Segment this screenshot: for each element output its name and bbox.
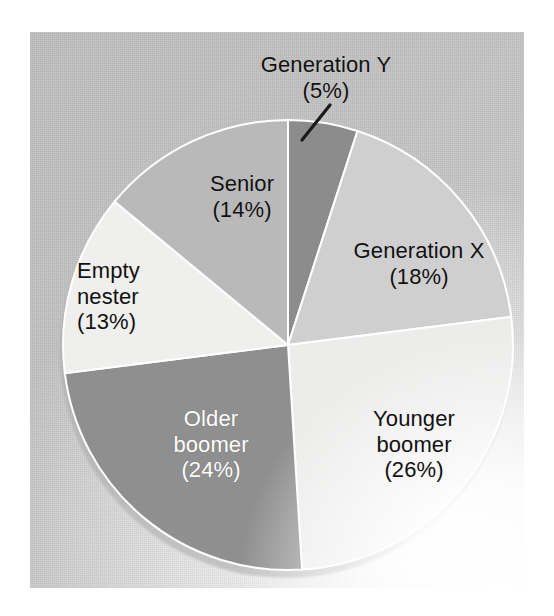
pie-label-generation-x-value: (18%) <box>331 264 507 290</box>
pie-label-older-boomer: Older boomer (24%) <box>131 406 291 483</box>
pie-label-generation-y-value: (5%) <box>231 78 421 104</box>
pie-label-generation-x: Generation X (18%) <box>331 238 507 289</box>
pie-chart-page: Generation Y (5%) Generation X (18%) You… <box>0 0 554 616</box>
pie-label-generation-y: Generation Y (5%) <box>231 52 421 103</box>
pie-label-empty-nester-line1: Empty <box>77 258 205 284</box>
pie-label-senior-line1: Senior <box>176 171 308 197</box>
pie-label-empty-nester-line2: nester <box>77 284 205 310</box>
pie-label-empty-nester-value: (13%) <box>77 309 205 335</box>
pie-label-younger-boomer-line2: boomer <box>339 432 489 458</box>
pie-label-generation-x-line1: Generation X <box>331 238 507 264</box>
pie-label-older-boomer-line2: boomer <box>131 432 291 458</box>
pie-label-older-boomer-line1: Older <box>131 406 291 432</box>
pie-label-senior-value: (14%) <box>176 197 308 223</box>
pie-label-generation-y-line1: Generation Y <box>231 52 421 78</box>
pie-label-senior: Senior (14%) <box>176 171 308 222</box>
pie-label-empty-nester: Empty nester (13%) <box>77 258 205 335</box>
pie-label-older-boomer-value: (24%) <box>131 457 291 483</box>
pie-label-younger-boomer-value: (26%) <box>339 457 489 483</box>
pie-label-younger-boomer: Younger boomer (26%) <box>339 406 489 483</box>
pie-label-younger-boomer-line1: Younger <box>339 406 489 432</box>
